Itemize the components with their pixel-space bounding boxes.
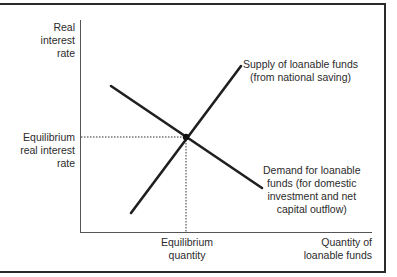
equilibrium-quantity-label-line: Equilibrium xyxy=(158,236,216,249)
supply-curve-label-line: Supply of loanable funds xyxy=(243,58,358,71)
demand-curve-label-line: Demand for loanable xyxy=(263,164,360,177)
equilibrium-rate-label: Equilibrium real interest rate xyxy=(20,131,75,170)
demand-curve-label-line: funds (for domestic xyxy=(263,177,360,190)
equilibrium-point xyxy=(183,134,189,140)
x-axis-label-line: Quantity of xyxy=(304,236,372,249)
equilibrium-rate-label-line: rate xyxy=(20,157,75,170)
y-axis-label-line: Real xyxy=(41,21,75,34)
demand-curve-label-line: capital outflow) xyxy=(263,203,360,216)
y-axis-label: Real interest rate xyxy=(41,21,75,60)
equilibrium-quantity-label-line: quantity xyxy=(158,249,216,262)
supply-curve-label-line: (from national saving) xyxy=(243,71,358,84)
x-axis-label: Quantity of loanable funds xyxy=(304,236,372,262)
x-axis-label-line: loanable funds xyxy=(304,249,372,262)
equilibrium-rate-label-line: Equilibrium xyxy=(20,131,75,144)
equilibrium-quantity-label: Equilibrium quantity xyxy=(158,236,216,262)
supply-curve-label: Supply of loanable funds (from national … xyxy=(243,58,358,84)
equilibrium-rate-label-line: real interest xyxy=(20,144,75,157)
demand-curve-label: Demand for loanable funds (for domestic … xyxy=(263,164,360,216)
y-axis-label-line: interest xyxy=(41,34,75,47)
y-axis-label-line: rate xyxy=(41,47,75,60)
demand-curve-label-line: investment and net xyxy=(263,190,360,203)
